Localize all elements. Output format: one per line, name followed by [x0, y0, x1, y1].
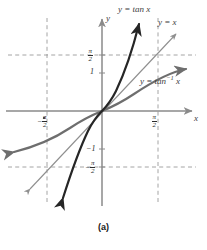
label-arctan-prefix: y = tan: [140, 76, 166, 86]
label-arctan-curve: y = tan−1 x: [140, 75, 180, 86]
x-tick-pi-over-2-den: 2: [152, 122, 157, 129]
label-tan-curve: y = tan x: [118, 5, 150, 14]
graph-canvas: [0, 0, 207, 250]
label-identity-line: y = x: [158, 18, 177, 27]
y-tick-pi-over-2: π2: [88, 48, 93, 63]
label-arctan-suffix: x: [176, 76, 180, 86]
label-arctan-exponent: −1: [166, 74, 174, 81]
figure-container: y = tan x y = x y = tan−1 x x y π2 1 −1 …: [0, 0, 207, 250]
x-tick-negative-pi-over-2-den: 2: [42, 122, 47, 129]
x-tick-negative-pi-over-2: −π2: [37, 114, 47, 129]
x-tick-pi-over-2: π2: [152, 114, 157, 129]
y-tick-negative-pi-over-2-den: 2: [90, 168, 95, 175]
x-axis-label: x: [194, 114, 198, 123]
y-axis-label: y: [106, 14, 110, 23]
y-tick-one: 1: [90, 68, 94, 76]
y-tick-negative-pi-over-2: −π2: [85, 160, 95, 175]
y-tick-negative-one: −1: [86, 145, 95, 153]
y-tick-pi-over-2-den: 2: [88, 56, 93, 63]
figure-caption: (a): [0, 222, 207, 232]
